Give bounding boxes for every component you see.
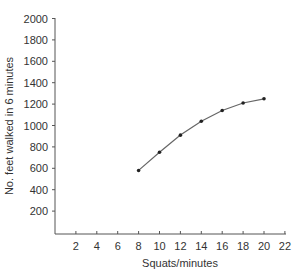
data-point bbox=[200, 119, 204, 123]
x-tick-label: 4 bbox=[94, 240, 100, 252]
x-tick-label: 16 bbox=[216, 240, 228, 252]
y-tick-label: 1200 bbox=[24, 98, 48, 110]
data-point bbox=[241, 101, 245, 105]
x-tick-label: 10 bbox=[153, 240, 165, 252]
x-tick-label: 14 bbox=[195, 240, 207, 252]
series-line bbox=[139, 99, 264, 171]
data-point bbox=[262, 97, 266, 101]
y-tick-label: 1800 bbox=[24, 34, 48, 46]
y-tick-label: 1400 bbox=[24, 77, 48, 89]
data-series bbox=[137, 97, 266, 172]
axes bbox=[55, 18, 286, 234]
y-tick-label: 1600 bbox=[24, 55, 48, 67]
x-tick-label: 22 bbox=[279, 240, 291, 252]
y-axis-label: No. feet walked in 6 minutes bbox=[3, 56, 15, 195]
line-chart: 200400600800100012001400160018002000 246… bbox=[0, 0, 299, 275]
data-point bbox=[179, 133, 183, 137]
x-tick-label: 18 bbox=[237, 240, 249, 252]
x-tick-label: 2 bbox=[73, 240, 79, 252]
y-tick-label: 600 bbox=[30, 162, 48, 174]
x-tick-label: 8 bbox=[136, 240, 142, 252]
y-tick-label: 200 bbox=[30, 205, 48, 217]
chart-svg: 200400600800100012001400160018002000 246… bbox=[0, 0, 299, 275]
y-tick-label: 800 bbox=[30, 141, 48, 153]
x-axis-label: Squats/minutes bbox=[142, 257, 218, 269]
y-tick-label: 2000 bbox=[24, 13, 48, 25]
y-tick-label: 400 bbox=[30, 184, 48, 196]
data-point bbox=[220, 109, 224, 113]
data-point bbox=[137, 169, 141, 173]
x-tick-label: 12 bbox=[174, 240, 186, 252]
x-tick-label: 6 bbox=[115, 240, 121, 252]
x-tick-label: 20 bbox=[258, 240, 270, 252]
data-point bbox=[158, 150, 162, 154]
y-ticks: 200400600800100012001400160018002000 bbox=[24, 13, 55, 218]
y-tick-label: 1000 bbox=[24, 120, 48, 132]
